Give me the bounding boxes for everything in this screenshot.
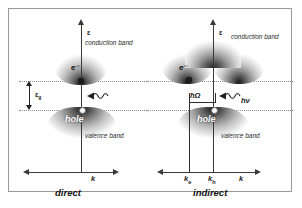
conduction-edge-guide-indirect <box>147 81 293 82</box>
photon-label: hν <box>241 97 250 105</box>
k-axis-arrowhead-left <box>23 169 29 175</box>
k-axis-label-indirect: k <box>239 175 243 183</box>
photon-wave-arrow-direct <box>83 90 113 103</box>
k-axis-arrowhead-left-indirect <box>157 169 163 175</box>
panel-direct: ε conduction band valence band hole e⁻ ε… <box>9 9 159 193</box>
conduction-band-label-direct: conduction band <box>85 40 133 47</box>
hole-marker-indirect <box>211 107 218 114</box>
panel-indirect: ε conduction band valence band hole e⁻ ħ… <box>159 9 293 193</box>
energy-axis-direct <box>81 24 82 172</box>
caption-indirect: indirect <box>193 188 227 198</box>
electron-label-indirect: e⁻ <box>179 64 187 72</box>
electron-marker-direct <box>78 78 84 84</box>
caption-direct: direct <box>55 188 81 198</box>
k-axis-arrowhead-right <box>113 169 119 175</box>
band-structure-figure: ε conduction band valence band hole e⁻ ε… <box>0 0 302 208</box>
energy-axis-label-indirect: ε <box>219 29 222 36</box>
band-gap-arrow-direct <box>29 86 30 105</box>
ke-subscript: e <box>188 179 191 185</box>
k-axis-direct <box>29 172 113 173</box>
kh-subscript: h <box>212 179 215 185</box>
electron-marker-indirect <box>186 77 192 83</box>
hole-label-indirect: hole <box>197 115 216 124</box>
phonon-label: ħΩ <box>190 92 200 100</box>
gap-arrowhead-down <box>26 105 32 110</box>
valence-band-label-direct: valence band <box>85 133 124 140</box>
energy-axis-label-direct: ε <box>87 29 90 36</box>
hole-label-direct: hole <box>65 115 84 124</box>
energy-axis-arrowhead-indirect <box>210 19 216 25</box>
energy-axis-arrowhead <box>78 19 84 25</box>
figure-frame: ε conduction band valence band hole e⁻ ε… <box>8 8 292 192</box>
k-tick-label-kh: kh <box>208 175 216 185</box>
electron-label-direct: e⁻ <box>71 64 79 72</box>
band-gap-subscript: g <box>38 94 41 100</box>
k-axis-indirect <box>163 172 255 173</box>
gap-arrowhead-up <box>26 81 32 86</box>
k-axis-arrowhead-right-indirect <box>255 169 261 175</box>
k-tick-label-ke: ke <box>184 175 191 185</box>
ke-vertical-line <box>189 93 190 172</box>
hole-marker-direct <box>79 107 86 114</box>
band-gap-label: εg <box>35 91 41 100</box>
valence-band-label-indirect: valence band <box>221 133 260 140</box>
conduction-band-label-indirect: conduction band <box>231 34 279 41</box>
k-axis-label-direct: k <box>91 175 95 183</box>
